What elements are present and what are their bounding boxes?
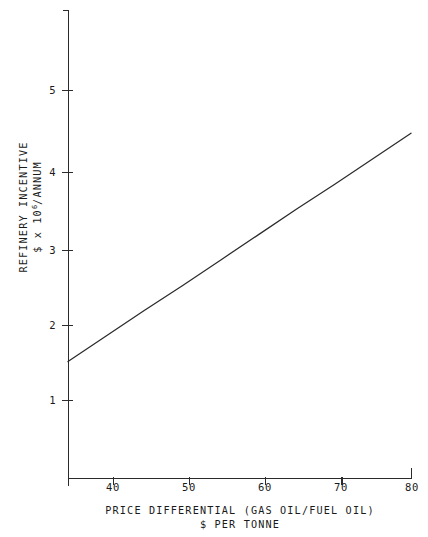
y-axis-title: REFINERY INCENTIVE $ x 106/ANNUM — [17, 107, 45, 307]
data-series-refinery-incentive — [68, 133, 411, 361]
y-axis-title-exponent: 6 — [31, 205, 39, 209]
x-axis-title: PRICE DIFFERENTIAL (GAS OIL/FUEL OIL) $ … — [68, 504, 412, 531]
y-axis-title-line1: REFINERY INCENTIVE — [17, 107, 31, 307]
y-axis-title-line2: $ x 106/ANNUM — [31, 107, 45, 307]
chart-figure: 1 2 3 4 5 40 50 60 70 80 REFINERY INCENT… — [0, 0, 428, 537]
y-axis-title-line2-prefix: $ x 10 — [32, 209, 43, 253]
x-axis-title-line1: PRICE DIFFERENTIAL (GAS OIL/FUEL OIL) — [68, 504, 412, 518]
x-axis-title-line2: $ PER TONNE — [68, 518, 412, 532]
y-axis-title-line2-suffix: /ANNUM — [32, 161, 43, 205]
plot-area — [0, 0, 428, 537]
